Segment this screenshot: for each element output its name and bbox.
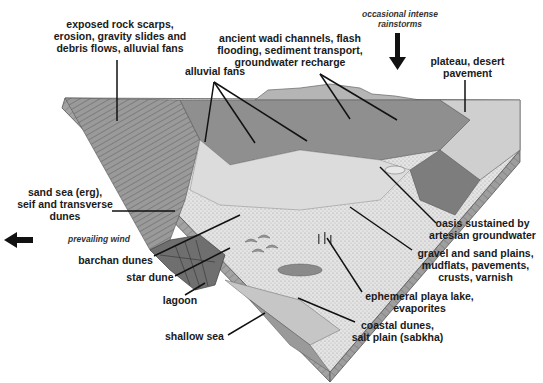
distant-mesa [255,84,420,100]
label-rainstorms: occasional intense rainstorms [355,9,445,29]
label-plateau: plateau, desert pavement [420,55,515,79]
label-sand-sea: sand sea (erg), seif and transverse dune… [10,186,120,222]
rainstorm-arrow-icon [389,33,406,70]
label-barchan-dunes: barchan dunes [78,254,153,266]
prevailing-wind-arrow-icon [4,232,33,248]
label-oasis: oasis sustained by artesian groundwater [425,217,540,241]
label-shallow-sea: shallow sea [162,330,227,342]
label-gravel-plains: gravel and sand plains, mudflats, paveme… [413,247,538,283]
label-lagoon: lagoon [160,294,200,306]
desert-block-diagram: exposed rock scarps, erosion, gravity sl… [0,0,543,383]
playa-lake [278,264,322,276]
label-coastal-dunes: coastal dunes, salt plain (sabkha) [350,319,445,343]
label-prevailing-wind: prevailing wind [68,234,138,244]
oasis [385,166,405,174]
label-playa-lake: ephemeral playa lake, evaporites [362,290,477,314]
label-wadi-channels: ancient wadi channels, flash flooding, s… [215,32,365,68]
label-rock-scarps: exposed rock scarps, erosion, gravity sl… [40,18,200,54]
label-star-dune: star dune [125,271,175,283]
label-alluvial-fans: alluvial fans [170,65,260,77]
